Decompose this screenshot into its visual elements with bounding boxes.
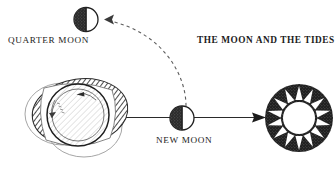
moon-and-tides-diagram: THE MOON AND THE TIDES QUARTER MOON NEW … [0, 0, 335, 171]
page-title: THE MOON AND THE TIDES [197, 36, 335, 45]
diagram-canvas [0, 0, 335, 171]
earth-group [25, 73, 132, 157]
new-moon-icon [170, 106, 194, 130]
earth-disc [47, 84, 109, 146]
moon-sun-arrow [126, 113, 266, 123]
sun-core [283, 102, 315, 134]
sun-icon [265, 84, 333, 152]
new-moon-label: NEW MOON [156, 136, 212, 145]
quarter-moon-label: QUARTER MOON [8, 36, 89, 45]
orbit-arrowhead [104, 15, 114, 25]
sun-arrowhead [252, 113, 266, 123]
quarter-moon-icon [74, 8, 98, 32]
